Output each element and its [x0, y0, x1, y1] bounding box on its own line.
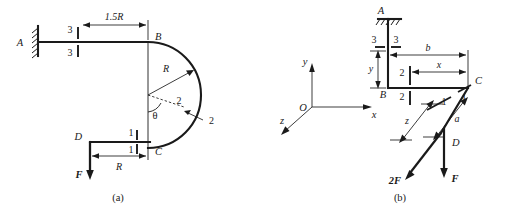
label-angle-theta: θ: [152, 110, 157, 121]
leader-section-2: [184, 110, 203, 120]
dimension-radius-r: [148, 70, 194, 95]
panel-a-planar-frame: A 3 3 1.5R B R: [0, 0, 255, 213]
label-point-d-b: D: [451, 137, 460, 148]
label-point-b-b: B: [380, 89, 387, 100]
dimension-x: [412, 69, 466, 74]
force-f-at-d: [86, 142, 94, 180]
arc-member-bc: [148, 42, 201, 148]
caption-panel-b: (b): [394, 192, 407, 204]
label-axis-z: z: [279, 115, 284, 126]
label-force-f-b: F: [450, 173, 458, 184]
label-section-3-bottom: 3: [68, 47, 73, 58]
label-section-2-far: 2: [209, 115, 214, 126]
label-axis-x: x: [371, 109, 377, 120]
label-origin-o: O: [299, 102, 307, 113]
label-force-2f: 2F: [388, 175, 401, 186]
label-dimension-a: a: [455, 113, 460, 124]
label-point-d: D: [73, 131, 82, 142]
label-point-b: B: [155, 31, 162, 42]
label-point-c-b: C: [475, 75, 483, 86]
label-point-a: A: [16, 37, 24, 48]
dimension-1p5r: [83, 20, 148, 40]
panel-b-spatial-frame: y x z O A 3 3 y: [255, 0, 510, 213]
dimension-r-dc: [92, 153, 146, 158]
label-dimension-y: y: [368, 63, 374, 74]
label-point-c: C: [155, 146, 163, 157]
caption-panel-a: (a): [112, 192, 124, 204]
label-axis-y: y: [302, 56, 308, 67]
label-section-1-bottom: 1: [129, 144, 134, 155]
label-section-3-right: 3: [394, 34, 399, 45]
label-dimension-b: b: [426, 42, 431, 53]
label-section-2-bottom: 2: [400, 91, 405, 102]
label-radius-r: R: [162, 63, 169, 74]
figure-root: A 3 3 1.5R B R: [0, 0, 510, 213]
label-section-1-left: 1: [442, 96, 447, 107]
label-dimension-x: x: [436, 59, 442, 70]
coordinate-axes: [281, 63, 372, 135]
label-section-3-top: 3: [68, 24, 73, 35]
label-section-2-near: 2: [177, 95, 182, 106]
label-dimension-z: z: [404, 115, 409, 126]
label-section-1-top: 1: [129, 127, 134, 138]
label-section-2-top: 2: [400, 67, 405, 78]
force-f-at-d-b: [440, 128, 448, 178]
label-force-f-a: F: [74, 169, 82, 180]
label-section-3-left: 3: [372, 34, 377, 45]
label-dimension-1p5r: 1.5R: [105, 11, 124, 22]
label-dimension-r-dc: R: [115, 161, 122, 172]
label-point-a-b: A: [377, 5, 385, 16]
